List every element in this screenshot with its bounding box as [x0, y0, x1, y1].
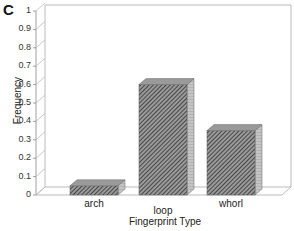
- chart-canvas: [0, 0, 294, 231]
- bars: [70, 79, 262, 195]
- bar-chart: C Frequency Fingerprint Type 00.10.20.30…: [0, 0, 294, 231]
- bar-loop: [139, 79, 194, 195]
- y-tick-label: 0.3: [9, 134, 31, 144]
- bar-whorl: [207, 125, 262, 195]
- category-label-arch: arch: [69, 198, 119, 209]
- x-axis-title: Fingerprint Type: [100, 216, 230, 227]
- y-tick-label: 0.2: [9, 152, 31, 162]
- y-axis-ticks: [33, 3, 45, 195]
- y-tick-label: 0.1: [9, 171, 31, 181]
- y-tick-label: 0: [9, 189, 31, 199]
- y-tick-label: 0.5: [9, 97, 31, 107]
- category-label-loop: loop: [138, 205, 188, 216]
- category-label-whorl: whorl: [206, 198, 256, 209]
- y-tick-label: 1: [9, 5, 31, 15]
- y-tick-label: 0.6: [9, 79, 31, 89]
- y-tick-label: 0.8: [9, 42, 31, 52]
- bar-arch: [70, 180, 125, 195]
- y-tick-label: 0.4: [9, 115, 31, 125]
- y-tick-label: 0.7: [9, 60, 31, 70]
- y-tick-label: 0.9: [9, 23, 31, 33]
